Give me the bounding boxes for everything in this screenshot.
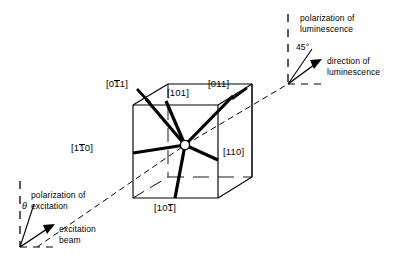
bond-line-110 xyxy=(185,145,218,160)
bond-line-101 xyxy=(166,101,185,145)
bond-label-101: [101] xyxy=(167,88,189,99)
bond-label-110: [110] xyxy=(223,147,244,158)
luminescence-angle-label: 45° xyxy=(296,42,309,53)
central-atom-circle xyxy=(180,140,189,149)
luminescence-angle-arc xyxy=(288,49,312,84)
bond-label-011: [011] xyxy=(208,79,229,90)
bond-label-0-1bar-1: [011] xyxy=(106,79,128,90)
cube-wireframe xyxy=(133,84,252,198)
stub-011 xyxy=(232,88,247,99)
bond-line-10-1bar xyxy=(175,145,185,198)
excitation-beam-arrowhead xyxy=(43,224,55,234)
overbar-glyph: 1 xyxy=(168,203,173,214)
bond-label-1-1bar-0: [110] xyxy=(71,143,93,154)
figure-canvas: [011] [101] [011] [110] [110] [101] pola… xyxy=(0,0,403,266)
cube-bottom-left-edge xyxy=(133,177,168,198)
bond-line-011 xyxy=(185,96,233,145)
cube-right-face xyxy=(218,84,252,198)
bond-label-10-1bar: [101] xyxy=(154,203,176,214)
excitation-polarization-label-line2: excitation xyxy=(31,201,68,212)
optical-axis-dashed xyxy=(37,84,288,247)
excitation-polarization-label-line1: polarization of xyxy=(31,190,85,201)
excitation-angle-symbol: θ xyxy=(22,201,27,212)
cube-top-face xyxy=(133,84,252,105)
excitation-beam-label-line2: beam xyxy=(59,235,81,246)
luminescence-polarization-label-line1: polarization of xyxy=(300,13,354,24)
bond-line-0-1bar-1 xyxy=(146,99,185,145)
luminescence-direction-label-line1: direction of xyxy=(327,56,370,67)
luminescence-direction-label-line2: luminescence xyxy=(327,67,380,78)
excitation-beam-label-line1: excitation xyxy=(59,224,96,235)
overbar-glyph: 1 xyxy=(114,79,119,90)
overbar-glyph: 1 xyxy=(79,143,84,154)
luminescence-polarization-label-line2: luminescence xyxy=(300,24,353,35)
bond-line-1-1bar-0 xyxy=(133,145,185,153)
luminescence-direction-arrowhead xyxy=(310,59,322,69)
